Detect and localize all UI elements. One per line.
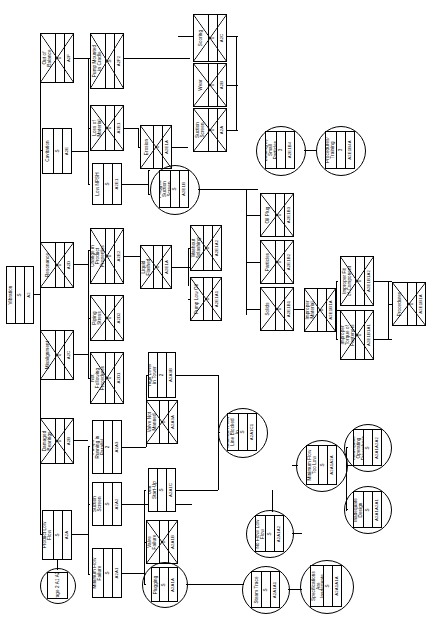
fault-tree-node[interactable]: SuctionScreenSA2A2 bbox=[92, 482, 122, 526]
node-rank-cell: 0 bbox=[407, 283, 416, 325]
node-code-cell: A2A1A bbox=[168, 568, 177, 601]
fault-tree-node[interactable]: High Levelin Tower2A2A3B bbox=[148, 352, 176, 398]
fault-tree-node[interactable]: PluggingSA2A1A bbox=[151, 567, 178, 602]
fault-tree-node[interactable]: Improper Fitof Component0A2E1B1A2 bbox=[340, 256, 374, 306]
fault-tree-node[interactable]: NotFollowingProcedures0A2D1 bbox=[90, 352, 124, 404]
node-rank-text: S bbox=[241, 430, 246, 433]
fault-tree-node[interactable]: TracingSpecificationsAreInadequateSA2A1A… bbox=[310, 565, 342, 607]
node-rank-cell: 0 bbox=[55, 34, 64, 82]
node-rank-text: 0 bbox=[58, 57, 63, 60]
node-name-cell: NotFollowingProcedures bbox=[91, 353, 105, 403]
node-name-text: Resonance bbox=[46, 253, 51, 277]
node-code-cell: A2A3B bbox=[166, 353, 175, 397]
fault-tree-node[interactable]: Steam TraceSA2A1A1 bbox=[251, 571, 280, 608]
fault-tree-node[interactable]: Resonance0A2D bbox=[40, 242, 74, 288]
node-code-cell: A2C bbox=[64, 331, 73, 379]
fault-tree-node[interactable]: Erosion0A2E1A bbox=[140, 125, 172, 169]
fault-tree-node[interactable]: ImproperTorque ofFasteners0A2E1B1A1 bbox=[340, 310, 374, 360]
fault-tree-node[interactable]: ImproperMaterial0A2E1B1A bbox=[304, 288, 336, 332]
fault-tree-node[interactable]: Solids0A2E1B1 bbox=[260, 287, 294, 331]
fault-tree-node[interactable]: InadequateOperatingProceduresSA2A1A2A2 bbox=[353, 429, 382, 466]
fault-tree-node[interactable]: Product LowFlowSA2A bbox=[42, 510, 72, 560]
node-rank-text: 0 bbox=[410, 303, 415, 306]
node-name-text: ImproperMaterial bbox=[306, 300, 316, 319]
connector-line bbox=[122, 184, 148, 185]
connector-line bbox=[88, 574, 90, 575]
node-rank-cell: 0 bbox=[275, 288, 284, 330]
node-rank-cell: S bbox=[238, 414, 247, 450]
node-name-text: InadequateDesign bbox=[354, 498, 363, 522]
node-rank-cell: 0 bbox=[55, 243, 64, 287]
node-name-text: Out ofBalance bbox=[43, 49, 53, 66]
node-name-text: WashoutSplashing bbox=[192, 237, 202, 258]
node-code-cell: A2B bbox=[64, 419, 73, 463]
node-name-text: Loss ofMaterial bbox=[93, 119, 103, 136]
fault-tree-node[interactable]: Misalignment0A2C bbox=[40, 330, 74, 380]
fault-tree-node[interactable]: No Flow/ LowFlowSA2A1A2 bbox=[255, 515, 284, 552]
node-rank-cell: S bbox=[170, 171, 179, 207]
node-rank-text: 0 bbox=[206, 247, 211, 250]
node-name-cell: Minimum FlowFailure bbox=[93, 549, 103, 597]
fault-tree-node[interactable]: ValveFailure0A2A1B bbox=[146, 520, 178, 564]
node-code-text: A2E1B4 bbox=[288, 142, 293, 158]
node-rank-text: S bbox=[106, 571, 111, 574]
fault-tree-node[interactable]: Change inProductProperties0A2E2 bbox=[90, 228, 124, 284]
node-name-text: PipingStress bbox=[93, 311, 103, 325]
fault-tree-node[interactable]: Particles0A2E1B2 bbox=[260, 240, 294, 284]
fault-tree-node[interactable]: CavitationSA2E bbox=[42, 128, 72, 174]
fault-tree-node[interactable]: Minimum FlowToo LowSA2A1A2A bbox=[306, 445, 337, 485]
connector-line bbox=[172, 147, 188, 148]
connector-line bbox=[227, 85, 237, 86]
node-code-cell: A2B bbox=[217, 64, 226, 106]
node-code-text: A2A1A2A1 bbox=[375, 499, 380, 521]
fault-tree-node[interactable]: Minimum FlowLine BlockedInSA2A1C1 bbox=[227, 413, 257, 451]
connector-line bbox=[198, 189, 258, 190]
fault-tree-node[interactable]: PumpsRunning inParallel2A2A3 bbox=[92, 420, 122, 474]
fault-tree-node[interactable]: Pump Mountedin CradleSA2F2 bbox=[90, 33, 124, 89]
node-code-text: A2D2 bbox=[117, 312, 122, 323]
fault-tree-node[interactable]: Page 2 A1 A2 bbox=[47, 572, 68, 599]
fault-tree-node[interactable]: InadequateDesignSA2A1A2A1 bbox=[353, 491, 382, 528]
node-code-text: A2E1A bbox=[165, 140, 170, 154]
fault-tree-node[interactable]: VibrationSA2 bbox=[6, 266, 34, 324]
node-code-cell: A2E1B3 bbox=[284, 194, 293, 236]
node-name-cell: InadequateOperatingProcedures bbox=[354, 430, 363, 465]
fault-tree-node[interactable]: PipingStress0A2D2 bbox=[90, 295, 124, 341]
fault-tree-node[interactable]: SuctionScreen0A2A bbox=[193, 108, 227, 152]
fault-tree-node[interactable]: Valve NotManned0A2A3A bbox=[146, 400, 178, 444]
node-code-cell: A2E1B bbox=[179, 171, 188, 207]
node-rank-text: S bbox=[321, 463, 326, 466]
fault-tree-node[interactable]: Minimum FlowFailureSA2A1 bbox=[92, 548, 122, 598]
fault-tree-node[interactable]: Oil Plug0A2E1B3 bbox=[260, 193, 294, 237]
node-code-cell: A2E1B1A2 bbox=[364, 257, 373, 305]
fault-tree-node[interactable]: DamagedBearings0A2B bbox=[40, 418, 74, 464]
fault-tree-node[interactable]: Loss ofMaterial0A2E1 bbox=[90, 105, 124, 151]
fault-tree-node[interactable]: Low NPSHSA2E1 bbox=[92, 163, 122, 205]
node-rank-cell: 0 bbox=[355, 257, 364, 305]
node-code-cell: A2A1A2A1 bbox=[372, 492, 381, 527]
node-code-cell: A2A1C1 bbox=[247, 414, 256, 450]
fault-tree-node[interactable]: Wear0A2B bbox=[193, 63, 227, 107]
node-rank-cell: 0 bbox=[105, 229, 114, 283]
fault-tree-node[interactable]: Binding bySmallParticles3A2E1B4 bbox=[265, 131, 295, 169]
connector-line bbox=[388, 281, 389, 339]
node-code-text: A2E1B1A2 bbox=[367, 270, 372, 292]
node-code-cell: A2E bbox=[62, 129, 71, 173]
fault-tree-node[interactable]: Scoring0A2C bbox=[193, 14, 227, 62]
node-code-text: A2E1A1 bbox=[215, 291, 220, 307]
fault-tree-node[interactable]: LiquidFlashed0A2E1A bbox=[140, 245, 172, 289]
connector-line bbox=[88, 250, 89, 378]
node-name-cell: Procedures bbox=[393, 283, 407, 325]
node-code-cell: A2E1B4 bbox=[285, 132, 294, 168]
fault-tree-node[interactable]: UnitStart-UpSA2A1C bbox=[148, 468, 176, 512]
fault-tree-node[interactable]: Out ofBalance0A2F bbox=[40, 33, 74, 83]
fault-tree-node[interactable]: PluggedSuctionScreenSA2E1B bbox=[159, 170, 189, 208]
fault-tree-node[interactable]: Procedures/Training3A2E1B4A bbox=[325, 131, 355, 169]
fault-tree-node[interactable]: WashoutSplashing0A2E1A2 bbox=[190, 225, 222, 271]
fault-tree-node[interactable]: Procedures0A2E1B1A bbox=[392, 282, 426, 326]
fault-tree-node[interactable]: Pump Low Oil0A2E1A1 bbox=[190, 277, 222, 321]
node-rank-cell: 0 bbox=[159, 401, 168, 443]
node-rank-text: S bbox=[160, 488, 165, 491]
node-rank-text: S bbox=[326, 584, 331, 587]
node-code-cell: A2D2 bbox=[114, 296, 123, 340]
